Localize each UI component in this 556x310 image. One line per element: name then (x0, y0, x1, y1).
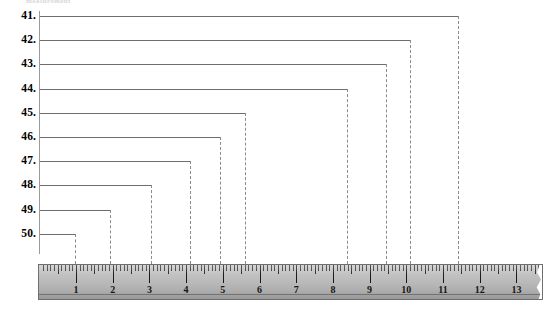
ruler-tick (296, 265, 297, 283)
ruler-tick (157, 265, 158, 271)
ruler-tick (293, 265, 294, 271)
row-label-44: 44. (6, 83, 36, 94)
ruler-tick (271, 265, 272, 271)
ruler-tick (47, 265, 48, 271)
ruler-tick (230, 265, 231, 271)
ruler-tick (329, 265, 330, 271)
ruler-tick (124, 265, 125, 271)
ruler-tick (164, 265, 165, 271)
ruler-tick (531, 265, 532, 271)
row-label-42: 42. (6, 34, 36, 45)
ruler-tick (201, 265, 202, 271)
ruler-tick (61, 265, 62, 271)
ruler-tick (355, 265, 356, 271)
ruler-tick (102, 265, 103, 271)
measurement-line-43 (40, 64, 386, 65)
ruler-tick (58, 265, 59, 274)
ruler-tick (362, 265, 363, 271)
ruler-tick (285, 265, 286, 271)
ruler-tick (384, 265, 385, 271)
ruler-tick (175, 265, 176, 271)
drop-line-44 (347, 89, 348, 264)
ruler-tick (359, 265, 360, 271)
ruler-tick (392, 265, 393, 271)
ruler-tick (421, 265, 422, 271)
measurement-line-45 (40, 113, 245, 114)
ruler-tick (450, 265, 451, 271)
ruler-tick (326, 265, 327, 271)
drop-line-49 (110, 210, 111, 264)
y-axis-line (39, 11, 40, 254)
ruler-tick (414, 265, 415, 271)
ruler-baseline (39, 294, 542, 295)
ruler-tick (252, 265, 253, 271)
ruler-tick (76, 265, 77, 283)
ruler-tick (527, 265, 528, 271)
ruler-tick (113, 265, 114, 283)
ruler-tick (403, 265, 404, 271)
ruler-tick (72, 265, 73, 271)
ruler-tick (245, 265, 246, 271)
ruler-tick (237, 265, 238, 271)
ruler-tick (131, 265, 132, 274)
ruler: 12345678910111213 (38, 264, 543, 300)
ruler-tick (535, 265, 536, 274)
ruler-tick (337, 265, 338, 271)
ruler-tick (138, 265, 139, 271)
ruler-tick (54, 265, 55, 271)
ruler-tick (458, 265, 459, 271)
measurement-line-44 (40, 89, 347, 90)
ruler-tick (432, 265, 433, 271)
drop-line-48 (151, 185, 152, 264)
ruler-tick (395, 265, 396, 271)
drop-line-46 (220, 137, 221, 264)
ruler-tick (94, 265, 95, 274)
plot-area: 41.42.43.44.45.46.47.48.49.50. (0, 0, 556, 264)
measurement-line-47 (40, 161, 190, 162)
ruler-tick (274, 265, 275, 271)
ruler-tick (278, 265, 279, 274)
ruler-tick (491, 265, 492, 271)
ruler-tick (373, 265, 374, 271)
ruler-tick (480, 265, 481, 283)
measurement-line-48 (40, 185, 151, 186)
ruler-tick (498, 265, 499, 274)
ruler-tick (234, 265, 235, 271)
ruler-tick (377, 265, 378, 271)
measurement-line-50 (40, 234, 75, 235)
ruler-tick (91, 265, 92, 271)
ruler-tick (219, 265, 220, 271)
drop-line-41 (458, 16, 459, 264)
ruler-tick (212, 265, 213, 271)
ruler-tick (50, 265, 51, 271)
ruler-tick (223, 265, 224, 283)
drop-line-42 (410, 40, 411, 264)
ruler-tick (282, 265, 283, 271)
ruler-tick (256, 265, 257, 271)
ruler-tick (502, 265, 503, 271)
ruler-tick (248, 265, 249, 271)
row-label-41: 41. (6, 10, 36, 21)
ruler-tick (443, 265, 444, 283)
ruler-tick (315, 265, 316, 274)
ruler-tick (516, 265, 517, 283)
ruler-tick (322, 265, 323, 271)
ruler-tick (80, 265, 81, 271)
ruler-tick (307, 265, 308, 271)
measurement-line-46 (40, 137, 220, 138)
ruler-tick (406, 265, 407, 283)
ruler-tick (476, 265, 477, 271)
ruler-tick (399, 265, 400, 271)
ruler-tick (505, 265, 506, 271)
ruler-tick (179, 265, 180, 271)
ruler-tick (494, 265, 495, 271)
ruler-tick (83, 265, 84, 271)
drop-line-43 (386, 64, 387, 264)
ruler-tick (105, 265, 106, 271)
drop-line-47 (190, 161, 191, 264)
ruler-tick (127, 265, 128, 271)
ruler-tick (340, 265, 341, 271)
ruler-tick (208, 265, 209, 271)
ruler-tick (417, 265, 418, 271)
ruler-tick (436, 265, 437, 271)
